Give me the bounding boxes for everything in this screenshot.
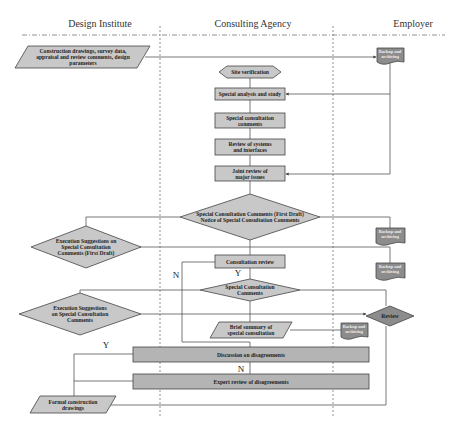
input-data-label: Construction drawings, survey data, appr… bbox=[31, 48, 136, 66]
first-draft-decision-label: Special Consultation Comments (First Dra… bbox=[194, 211, 306, 223]
formal-drawings-label: Formal construction drawings bbox=[41, 399, 105, 411]
lane-title-consulting-agency: Consulting Agency bbox=[215, 18, 292, 29]
edge-label-y-consultation: Y bbox=[235, 268, 242, 278]
backup-3-label: Backup and archiving bbox=[377, 265, 403, 274]
review-systems-label: Review of systems and interfaces bbox=[224, 141, 276, 153]
edge-label-y-discussion: Y bbox=[103, 340, 110, 350]
edge-label-n-consultation: N bbox=[173, 270, 180, 280]
lane-title-design-institute: Design Institute bbox=[68, 18, 132, 29]
special-comments-label: Special consultation comments bbox=[217, 115, 283, 127]
expert-review-label: Expert review of disagreements bbox=[151, 379, 351, 385]
site-verification-label: Site verification bbox=[222, 69, 278, 75]
backup-2-label: Backup and archiving bbox=[377, 230, 403, 239]
exec-suggestions-label: Execution Suggestions on Special Consult… bbox=[50, 305, 110, 323]
discussion-label: Discussion on disagreements bbox=[151, 352, 351, 358]
special-comments-decision-label: Special Consultation Comments bbox=[220, 284, 280, 296]
brief-summary-label: Brief summary of special consultation bbox=[223, 324, 279, 336]
backup-4-label: Backup and archiving bbox=[341, 325, 367, 334]
consultation-review-label: Consultation review bbox=[216, 259, 284, 265]
lane-title-employer: Employer bbox=[393, 18, 432, 29]
special-analysis-label: Special analysis and study bbox=[215, 91, 285, 97]
edge-label-n-discussion: N bbox=[238, 364, 245, 374]
joint-review-label: Joint review of major issues bbox=[227, 168, 273, 180]
exec-suggestions-first-label: Execution Suggestions on Special Consult… bbox=[55, 238, 117, 256]
backup-1-label: Backup and archiving bbox=[377, 50, 403, 59]
review-label: Review bbox=[375, 313, 405, 319]
